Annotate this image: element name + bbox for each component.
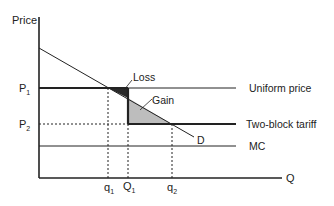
mc-label: MC (249, 140, 266, 152)
gain-label: Gain (152, 94, 174, 106)
y-axis-label: Price (12, 14, 37, 26)
Q1-label: Q1 (123, 180, 136, 194)
two-block-tariff-label: Two-block tariff (246, 118, 316, 130)
two-block-tariff-diagram: Price Q P1 P2 q1 Q1 q2 Uniform price Two… (0, 0, 334, 206)
p2-label: P2 (19, 118, 30, 132)
p1-label: P1 (19, 82, 30, 96)
demand-label: D (197, 134, 205, 146)
loss-label: Loss (133, 71, 155, 83)
q1-label: q1 (104, 181, 114, 195)
q2-label: q2 (167, 181, 177, 195)
uniform-price-label: Uniform price (249, 82, 312, 94)
x-axis-label: Q (286, 172, 295, 184)
gain-leader (140, 99, 152, 110)
